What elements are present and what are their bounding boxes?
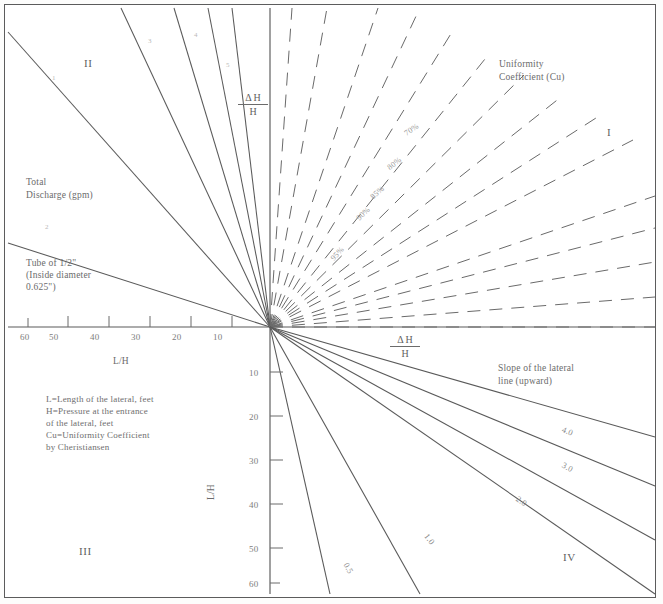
lower-fraction-numerator: Δ H <box>390 334 420 345</box>
q1-caption-line2: Coefficient (Cu) <box>499 71 565 83</box>
upper-delta-h-over-h-fraction: Δ H H <box>238 92 268 117</box>
x-tick-50: 50 <box>49 331 58 343</box>
lower-fraction-denominator: H <box>390 348 420 359</box>
vertical-axis-ticks <box>270 372 283 583</box>
top-left-axis-name: L/H <box>113 355 129 367</box>
q2-note-line2: (Inside diameter <box>26 269 91 281</box>
y-tick-20: 20 <box>249 411 258 423</box>
legend-line-2: H=Pressure at the entrance <box>46 405 148 418</box>
upper-fraction-numerator: Δ H <box>238 92 268 103</box>
y-tick-40: 40 <box>249 499 258 511</box>
q4-caption-line2: line (upward) <box>498 375 552 387</box>
q2-note-line1: Tube of 1/2" <box>26 257 76 269</box>
x-tick-60: 60 <box>20 331 29 343</box>
q2-ray-label-3: 3 <box>148 35 152 47</box>
q2-caption-line2: Discharge (gpm) <box>26 189 93 201</box>
upper-fraction-denominator: H <box>238 106 268 117</box>
lower-delta-h-over-h-fraction: Δ H H <box>390 334 420 359</box>
y-tick-50: 50 <box>249 543 258 555</box>
axis-cross <box>8 8 655 594</box>
y-tick-30: 30 <box>249 455 258 467</box>
q2-caption-line1: Total <box>26 176 46 188</box>
x-tick-40: 40 <box>90 331 99 343</box>
nomograph-figure: II Total Discharge (gpm) Tube of 1/2" (I… <box>0 0 663 604</box>
q2-ray-label-2: 2 <box>45 221 49 233</box>
x-tick-20: 20 <box>172 331 181 343</box>
legend-line-1: L=Length of the lateral, feet <box>46 393 154 406</box>
horizontal-axis-ticks <box>28 316 232 327</box>
q4-caption-line1: Slope of the lateral <box>498 362 574 374</box>
bottom-left-axis-name: L/H <box>205 484 217 500</box>
q1-caption-line1: Uniformity <box>499 58 544 70</box>
q4-slope-rays <box>270 327 655 594</box>
upper-fraction-bar <box>238 104 268 105</box>
q2-note-line3: 0.625") <box>26 281 56 293</box>
q2-ray-label-1: 1 <box>52 72 56 84</box>
y-tick-60: 60 <box>249 578 258 590</box>
legend-line-3: of the lateral, feet <box>46 417 113 430</box>
quadrant-4-numeral: IV <box>563 551 576 563</box>
lower-fraction-bar <box>390 346 420 347</box>
x-tick-10: 10 <box>213 331 222 343</box>
quadrant-1-numeral: I <box>607 126 611 138</box>
q1-uniformity-contours <box>270 8 655 327</box>
quadrant-3-numeral: III <box>79 545 92 557</box>
y-tick-10: 10 <box>249 367 258 379</box>
quadrant-2-numeral: II <box>84 57 93 69</box>
legend-line-4: Cu=Uniformity Coefficient <box>46 429 150 442</box>
q2-ray-label-4: 4 <box>194 29 198 41</box>
nomograph-line-art <box>0 0 663 604</box>
q2-ray-label-5: 5 <box>226 59 230 71</box>
x-tick-30: 30 <box>131 331 140 343</box>
legend-line-5: by Cheristiansen <box>46 441 109 454</box>
